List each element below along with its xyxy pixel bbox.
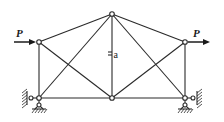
node-right-top bbox=[183, 40, 188, 45]
truss-members bbox=[39, 14, 185, 98]
ground-hatch-left bbox=[32, 109, 47, 113]
wall-hatch-right bbox=[197, 89, 202, 108]
arrow-right-icon bbox=[203, 39, 210, 45]
member-diag-left-1 bbox=[39, 42, 112, 98]
dimension-label: a bbox=[114, 49, 119, 60]
load-right: P bbox=[188, 27, 210, 45]
truss-diagram: a P P bbox=[0, 0, 224, 122]
node-left-top bbox=[37, 40, 42, 45]
dimension-marker: a bbox=[108, 49, 119, 60]
wall-hatch-left bbox=[22, 89, 27, 108]
member-top-right-chord bbox=[112, 14, 185, 42]
load-label-left: P bbox=[16, 27, 23, 39]
node-top-center bbox=[110, 12, 115, 17]
load-label-right: P bbox=[193, 27, 200, 39]
member-diag-left-2 bbox=[39, 14, 112, 98]
member-top-left-chord bbox=[39, 14, 112, 42]
node-left-bottom bbox=[37, 96, 42, 101]
member-diag-right-2 bbox=[112, 42, 185, 98]
node-right-bottom bbox=[183, 96, 188, 101]
support-right bbox=[178, 89, 202, 113]
ground-hatch-right bbox=[178, 109, 193, 113]
member-diag-right-1 bbox=[112, 14, 185, 98]
load-left: P bbox=[14, 27, 36, 45]
arrow-right-icon bbox=[29, 39, 36, 45]
node-bottom-center bbox=[110, 96, 115, 101]
